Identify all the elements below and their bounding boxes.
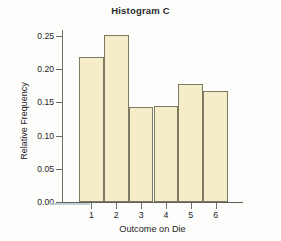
y-axis-tick bbox=[56, 102, 62, 103]
x-axis-tick-label: 6 bbox=[206, 210, 226, 220]
histogram-bar bbox=[104, 35, 129, 202]
x-axis-tick-label: 1 bbox=[81, 210, 101, 220]
x-axis-title: Outcome on Die bbox=[62, 224, 243, 234]
histogram-bar bbox=[79, 57, 104, 202]
x-axis-tick-label: 3 bbox=[131, 210, 151, 220]
scan-tint-artifact bbox=[50, 203, 90, 205]
x-axis-tick bbox=[141, 203, 142, 209]
histogram-bar bbox=[129, 107, 154, 202]
x-axis-tick bbox=[91, 203, 92, 209]
y-axis-tick bbox=[56, 136, 62, 137]
plot-area bbox=[62, 30, 243, 202]
y-axis-tick bbox=[56, 169, 62, 170]
y-axis-tick-labels: 0.000.050.100.150.200.25 bbox=[0, 0, 54, 241]
y-axis-tick bbox=[56, 202, 62, 203]
histogram-bar bbox=[178, 84, 203, 202]
x-axis-tick-label: 4 bbox=[156, 210, 176, 220]
histogram-figure: Histogram C Relative Frequency 0.000.050… bbox=[0, 0, 281, 241]
y-axis-tick bbox=[56, 36, 62, 37]
x-axis-tick bbox=[116, 203, 117, 209]
y-axis-tick bbox=[56, 69, 62, 70]
y-axis-tick-label: 0.15 bbox=[0, 97, 54, 107]
histogram-bar bbox=[203, 91, 228, 202]
x-axis-tick bbox=[216, 203, 217, 209]
x-axis-tick-label: 5 bbox=[181, 210, 201, 220]
histogram-bar bbox=[154, 106, 179, 202]
y-axis-tick-label: 0.25 bbox=[0, 31, 54, 41]
x-axis-tick bbox=[191, 203, 192, 209]
y-axis-tick-label: 0.00 bbox=[0, 197, 54, 207]
y-axis-tick-label: 0.10 bbox=[0, 130, 54, 140]
x-axis-tick-label: 2 bbox=[106, 210, 126, 220]
x-axis-tick bbox=[166, 203, 167, 209]
y-axis-tick-label: 0.05 bbox=[0, 163, 54, 173]
y-axis-tick-label: 0.20 bbox=[0, 64, 54, 74]
